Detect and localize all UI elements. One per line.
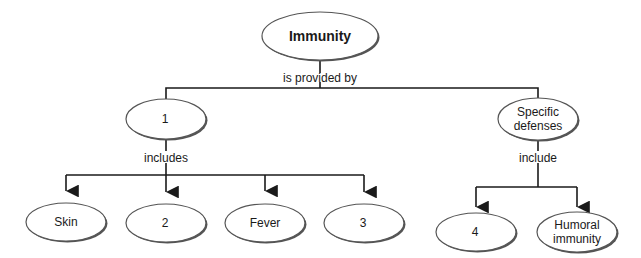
node-skin: Skin [26,203,108,243]
link-label-include: include [519,151,557,165]
node-label-line2: defenses [514,119,563,133]
node-3: 3 [324,204,406,244]
node-label-line1: Humoral [554,218,599,232]
node-label: Fever [250,216,281,230]
node-label-line2: immunity [553,232,601,246]
node-label: 1 [162,112,169,126]
concept-map: is provided by includes include Immunity… [0,0,641,258]
node-label: Immunity [289,28,351,44]
node-specific-defenses: Specific defenses [498,98,580,142]
node-label: 4 [472,225,479,239]
node-label-line1: Specific [517,105,559,119]
node-humoral-immunity: Humoral immunity [537,212,619,254]
node-label: 2 [162,216,169,230]
node-label: Skin [54,215,77,229]
node-2: 2 [126,204,208,244]
node-immunity: Immunity [262,12,380,62]
node-4: 4 [436,213,518,253]
link-label-includes: includes [144,151,188,165]
node-fever: Fever [225,204,307,244]
node-label: 3 [360,216,367,230]
node-1: 1 [126,99,208,141]
link-label-is-provided-by: is provided by [283,71,357,85]
